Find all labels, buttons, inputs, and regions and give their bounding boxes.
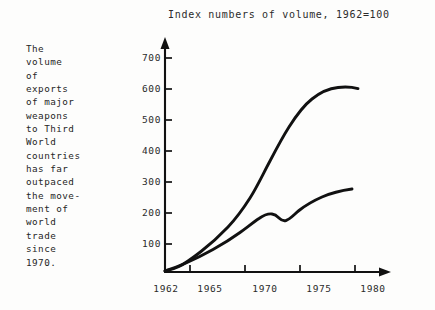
series-line-trade — [165, 189, 352, 271]
y-tick-label-100: 100 — [131, 238, 161, 249]
y-tick-label-500: 500 — [131, 114, 161, 125]
chart-series — [165, 87, 358, 271]
y-tick-label-600: 600 — [131, 83, 161, 94]
x-axis-arrowhead — [379, 268, 391, 277]
x-tick-label-1970: 1970 — [245, 283, 285, 294]
y-tick-label-700: 700 — [131, 52, 161, 63]
y-tick-label-300: 300 — [131, 176, 161, 187]
y-tick-label-200: 200 — [131, 207, 161, 218]
x-tick-label-1962: 1962 — [146, 283, 186, 294]
y-axis-arrowhead — [161, 37, 170, 49]
x-tick-label-1975: 1975 — [299, 283, 339, 294]
line-chart-plot — [0, 0, 435, 310]
series-line-weapons — [165, 87, 358, 271]
chart-axes — [161, 37, 392, 277]
y-tick-label-400: 400 — [131, 145, 161, 156]
chart-page: Index numbers of volume, 1962=100 The vo… — [0, 0, 435, 310]
x-tick-label-1965: 1965 — [190, 283, 230, 294]
x-tick-label-1980: 1980 — [353, 283, 393, 294]
